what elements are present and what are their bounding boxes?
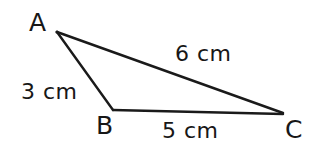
vertex-label-b: B: [96, 113, 113, 138]
vertex-label-c: C: [285, 117, 302, 142]
side-length-label-ac: 6 cm: [175, 43, 232, 65]
vertex-label-a: A: [29, 10, 46, 35]
vertex-point-a: [55, 30, 58, 33]
side-length-label-ab: 3 cm: [21, 81, 78, 103]
triangle-diagram: A B C 6 cm 3 cm 5 cm: [0, 0, 316, 150]
triangle-shape: [0, 0, 316, 150]
side-length-label-bc: 5 cm: [162, 120, 219, 142]
triangle-edge-ac: [57, 32, 283, 113]
triangle-edge-bc: [113, 110, 283, 114]
